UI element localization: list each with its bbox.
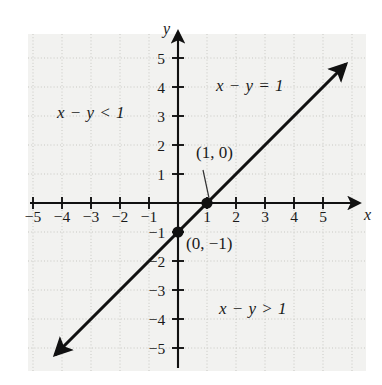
graph-figure: y x 5 4 3 2 1 −1 −2 −3 −4 −5 −5 −4 −3 −2… bbox=[0, 0, 382, 385]
x-tick-label-1: 1 bbox=[198, 209, 216, 225]
annotation-region-above: x − y < 1 bbox=[57, 104, 125, 121]
x-tick-label-neg1: −1 bbox=[136, 209, 162, 225]
y-tick-label-4: 4 bbox=[152, 80, 170, 96]
annotation-line-equation: x − y = 1 bbox=[216, 77, 284, 94]
x-tick-label-neg5: −5 bbox=[20, 209, 46, 225]
y-tick-label-1: 1 bbox=[152, 167, 170, 183]
y-tick-label-neg5: −5 bbox=[144, 341, 170, 357]
x-tick-label-2: 2 bbox=[227, 209, 245, 225]
x-tick-label-neg2: −2 bbox=[107, 209, 133, 225]
y-tick-label-neg4: −4 bbox=[144, 312, 170, 328]
y-tick-label-neg3: −3 bbox=[144, 283, 170, 299]
point-marker-1-0 bbox=[201, 197, 212, 208]
point-marker-0-neg1 bbox=[172, 226, 183, 237]
x-axis-label: x bbox=[364, 207, 371, 223]
y-axis-label: y bbox=[163, 21, 170, 37]
y-tick-label-neg1: −1 bbox=[144, 225, 170, 241]
annotation-point-1-0: (1, 0) bbox=[196, 144, 233, 161]
x-tick-label-4: 4 bbox=[285, 209, 303, 225]
annotation-point-0-neg1: (0, −1) bbox=[186, 235, 232, 252]
coordinate-plane bbox=[0, 0, 382, 385]
y-tick-label-neg2: −2 bbox=[144, 254, 170, 270]
y-tick-label-3: 3 bbox=[152, 109, 170, 125]
x-tick-label-neg3: −3 bbox=[78, 209, 104, 225]
x-tick-label-3: 3 bbox=[256, 209, 274, 225]
annotation-region-below: x − y > 1 bbox=[219, 300, 287, 317]
x-tick-label-neg4: −4 bbox=[49, 209, 75, 225]
y-tick-label-2: 2 bbox=[152, 138, 170, 154]
y-tick-label-5: 5 bbox=[152, 51, 170, 67]
x-tick-label-5: 5 bbox=[314, 209, 332, 225]
